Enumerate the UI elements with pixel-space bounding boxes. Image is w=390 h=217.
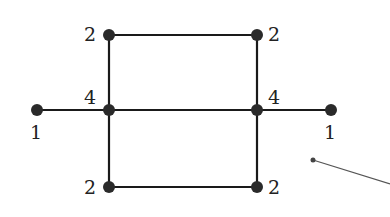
node-top-left xyxy=(103,29,115,41)
pointer-line xyxy=(313,160,390,184)
label-mid-right: 4 xyxy=(268,86,280,108)
node-bottom-left xyxy=(103,181,115,193)
label-far-right: 1 xyxy=(324,121,336,143)
label-bottom-left: 2 xyxy=(84,176,96,198)
node-mid-left xyxy=(103,104,115,116)
node-far-right xyxy=(325,104,337,116)
label-far-left: 1 xyxy=(30,121,42,143)
node-bottom-right xyxy=(251,181,263,193)
label-mid-left: 4 xyxy=(84,86,96,108)
label-top-right: 2 xyxy=(268,23,280,45)
label-bottom-right: 2 xyxy=(268,176,280,198)
pointer-dot xyxy=(311,158,316,163)
node-top-right xyxy=(251,29,263,41)
label-top-left: 2 xyxy=(84,23,96,45)
node-mid-right xyxy=(251,104,263,116)
graph-diagram: 2 2 4 4 1 1 2 2 xyxy=(0,0,390,217)
node-far-left xyxy=(31,104,43,116)
